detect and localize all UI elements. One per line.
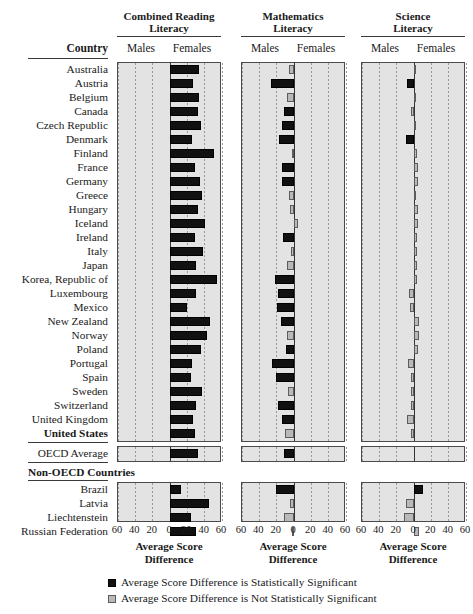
bar[interactable]: [414, 121, 416, 130]
bar[interactable]: [414, 261, 417, 270]
bar[interactable]: [290, 205, 294, 214]
bar[interactable]: [170, 415, 193, 424]
bar[interactable]: [287, 331, 294, 340]
chart-panel-math-non-oecd[interactable]: [241, 482, 345, 522]
bar[interactable]: [170, 359, 192, 368]
chart-panel-math-oecd-average[interactable]: [241, 446, 345, 462]
bar[interactable]: [170, 233, 195, 242]
bar[interactable]: [287, 261, 294, 270]
bar[interactable]: [272, 359, 294, 368]
chart-panel-reading[interactable]: [117, 62, 221, 442]
bar[interactable]: [282, 121, 294, 130]
bar[interactable]: [170, 205, 198, 214]
bar[interactable]: [411, 387, 414, 396]
bar[interactable]: [414, 247, 417, 256]
bar[interactable]: [170, 513, 191, 522]
bar[interactable]: [414, 317, 419, 326]
bar[interactable]: [414, 485, 423, 494]
bar[interactable]: [271, 79, 294, 88]
bar[interactable]: [407, 79, 414, 88]
bar[interactable]: [414, 65, 416, 74]
bar[interactable]: [414, 191, 416, 200]
bar[interactable]: [170, 289, 196, 298]
bar[interactable]: [170, 121, 201, 130]
bar[interactable]: [292, 149, 294, 158]
bar[interactable]: [289, 65, 294, 74]
bar[interactable]: [275, 275, 294, 284]
bar[interactable]: [404, 513, 414, 522]
bar[interactable]: [170, 261, 196, 270]
bar[interactable]: [282, 177, 294, 186]
bar[interactable]: [414, 149, 417, 158]
bar[interactable]: [282, 415, 294, 424]
bar[interactable]: [414, 205, 418, 214]
bar[interactable]: [170, 219, 205, 228]
bar[interactable]: [170, 275, 217, 284]
bar[interactable]: [410, 303, 414, 312]
bar[interactable]: [170, 303, 187, 312]
bar[interactable]: [170, 499, 209, 508]
bar[interactable]: [170, 317, 210, 326]
bar[interactable]: [276, 485, 294, 494]
bar[interactable]: [283, 233, 294, 242]
bar[interactable]: [170, 93, 199, 102]
bar[interactable]: [414, 331, 419, 340]
bar[interactable]: [170, 79, 193, 88]
bar[interactable]: [284, 513, 294, 522]
bar[interactable]: [279, 135, 294, 144]
bar[interactable]: [170, 401, 196, 410]
bar[interactable]: [290, 499, 294, 508]
chart-panel-reading-non-oecd[interactable]: [117, 482, 221, 522]
bar[interactable]: [407, 415, 414, 424]
bar[interactable]: [284, 107, 294, 116]
bar[interactable]: [414, 233, 417, 242]
bar[interactable]: [170, 191, 202, 200]
bar[interactable]: [414, 219, 418, 228]
bar[interactable]: [414, 345, 418, 354]
chart-panel-math[interactable]: [241, 62, 345, 442]
bar[interactable]: [170, 373, 191, 382]
bar[interactable]: [289, 191, 294, 200]
chart-panel-reading-oecd-average[interactable]: [117, 446, 221, 462]
bar[interactable]: [170, 449, 198, 458]
bar[interactable]: [277, 303, 294, 312]
bar[interactable]: [170, 65, 199, 74]
bar[interactable]: [414, 93, 416, 102]
bar[interactable]: [284, 449, 294, 458]
chart-panel-science-oecd-average[interactable]: [361, 446, 465, 462]
bar[interactable]: [170, 135, 192, 144]
bar[interactable]: [414, 177, 418, 186]
bar[interactable]: [291, 247, 294, 256]
bar[interactable]: [411, 429, 414, 438]
bar[interactable]: [287, 93, 294, 102]
bar[interactable]: [170, 485, 181, 494]
bar[interactable]: [406, 499, 414, 508]
bar[interactable]: [170, 345, 201, 354]
bar[interactable]: [288, 387, 294, 396]
chart-panel-science[interactable]: [361, 62, 465, 442]
bar[interactable]: [285, 429, 294, 438]
bar[interactable]: [414, 163, 418, 172]
bar[interactable]: [170, 163, 195, 172]
bar[interactable]: [294, 219, 298, 228]
chart-panel-science-non-oecd[interactable]: [361, 482, 465, 522]
bar[interactable]: [408, 359, 414, 368]
bar[interactable]: [282, 163, 294, 172]
bar[interactable]: [276, 373, 294, 382]
bar[interactable]: [406, 135, 414, 144]
bar[interactable]: [170, 429, 195, 438]
bar[interactable]: [278, 401, 294, 410]
bar[interactable]: [170, 149, 214, 158]
bar[interactable]: [170, 247, 203, 256]
bar[interactable]: [170, 387, 202, 396]
bar[interactable]: [411, 373, 414, 382]
bar[interactable]: [414, 275, 417, 284]
bar[interactable]: [170, 107, 198, 116]
bar[interactable]: [281, 317, 294, 326]
bar[interactable]: [409, 289, 414, 298]
bar[interactable]: [286, 345, 294, 354]
bar[interactable]: [411, 107, 414, 116]
bar[interactable]: [170, 331, 207, 340]
bar[interactable]: [411, 401, 414, 410]
bar[interactable]: [170, 177, 200, 186]
